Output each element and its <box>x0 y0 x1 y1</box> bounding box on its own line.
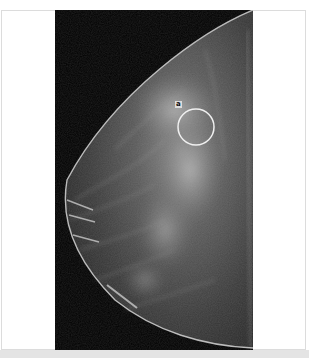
mammogram-image <box>55 10 253 350</box>
bottom-strip <box>0 350 309 358</box>
annotation-label: a <box>175 101 182 108</box>
